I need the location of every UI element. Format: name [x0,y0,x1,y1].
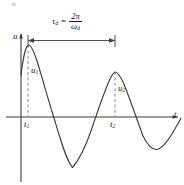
stray-scan-mark: u [12,1,16,8]
peak1-label-subscript: 1 [36,69,39,75]
time1-label: t1 [24,120,29,130]
y-axis-arrowhead [19,33,23,39]
time2-label-subscript: 2 [113,123,116,129]
equals-sign: = [61,17,66,26]
time1-label-subscript: 1 [27,123,30,129]
period-symbol: τd [52,17,58,27]
x-axis-label: t [174,110,177,119]
peak1-label: u1 [31,66,38,76]
time2-label: t2 [110,120,115,130]
damped-vibration-figure: u u t u1 u2 t1 t2 τd = 2π ωd [0,0,184,185]
period-fraction: 2π ωd [69,12,82,32]
x-axis [6,115,178,119]
period-formula: τd = 2π ωd [52,12,82,32]
fraction-numerator: 2π [69,12,82,21]
period-arrowhead-right [109,38,116,43]
peak2-label: u2 [118,84,125,94]
period-arrow [28,38,116,43]
peak2-label-subscript: 2 [123,87,126,93]
y-axis-label: u [13,32,18,41]
plot-canvas [0,0,184,185]
period-symbol-subscript: d [55,20,58,26]
period-arrowhead-left [28,38,35,43]
fraction-denominator: ωd [69,21,82,32]
fraction-denominator-subscript: d [77,25,80,31]
y-axis [19,33,23,182]
response-curve [21,45,181,168]
